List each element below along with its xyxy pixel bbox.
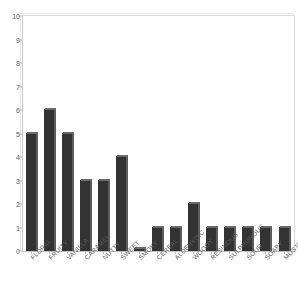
bar[interactable] [62, 133, 72, 252]
bar[interactable] [134, 248, 144, 251]
bar[interactable] [152, 227, 162, 252]
bar[interactable] [80, 180, 90, 252]
bar[interactable] [170, 227, 180, 252]
bars-layer [0, 0, 298, 306]
bar-chart: 012345678910 FLORALFRUITYVANILLACARAMELN… [0, 0, 298, 306]
bar[interactable] [188, 203, 198, 251]
bar[interactable] [260, 227, 270, 252]
bar[interactable] [26, 133, 36, 252]
bar[interactable] [44, 109, 54, 251]
bar[interactable] [279, 227, 289, 252]
bar[interactable] [206, 227, 216, 252]
bar[interactable] [116, 156, 126, 251]
bar[interactable] [242, 227, 252, 252]
bar[interactable] [224, 227, 234, 252]
bar[interactable] [98, 180, 108, 252]
